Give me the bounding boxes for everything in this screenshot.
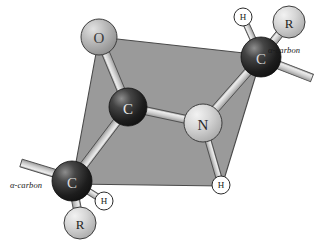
- atom-side-chain-upper: R: [273, 6, 305, 38]
- atom-label-alpha-carbon-lower: C: [67, 175, 77, 191]
- alpha-carbon-label-lower: α-carbon: [10, 180, 42, 190]
- alpha-upper-free-bond: [275, 60, 314, 81]
- molecule-canvas: OCNCCRRHHH: [0, 0, 331, 247]
- atom-alpha-carbon-upper: C: [241, 37, 281, 77]
- atom-hydrogen-amide: H: [212, 176, 230, 194]
- alpha-lower-free-bond: [20, 159, 58, 178]
- alpha-carbon-label-upper: α-carbon: [268, 45, 300, 55]
- atom-nitrogen: N: [184, 104, 222, 142]
- atom-label-alpha-carbon-upper: C: [256, 51, 266, 67]
- atom-label-nitrogen: N: [198, 117, 209, 133]
- atom-side-chain-lower: R: [64, 207, 96, 239]
- atom-hydrogen-upper-alpha: H: [234, 8, 252, 26]
- atom-label-hydrogen-upper-alpha: H: [240, 12, 247, 22]
- atom-label-oxygen: O: [94, 30, 105, 46]
- atom-label-hydrogen-lower-alpha: H: [101, 196, 108, 206]
- atom-label-carbonyl-carbon: C: [123, 101, 133, 117]
- atom-carbonyl-carbon: C: [109, 88, 147, 126]
- molecular-diagram-figure: OCNCCRRHHH α-carbon α-carbon: [0, 0, 331, 247]
- atom-oxygen: O: [81, 19, 117, 55]
- atom-label-side-chain-lower: R: [76, 217, 85, 232]
- atom-hydrogen-lower-alpha: H: [95, 192, 113, 210]
- atom-label-side-chain-upper: R: [285, 16, 294, 31]
- atom-label-hydrogen-amide: H: [218, 180, 225, 190]
- atom-alpha-carbon-lower: C: [52, 161, 92, 201]
